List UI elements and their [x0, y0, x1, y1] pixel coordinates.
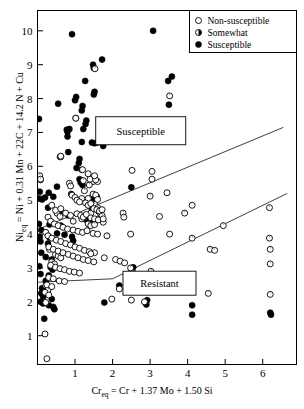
- data-point-filled: [80, 126, 86, 132]
- y-axis-title-post: = Ni + 0.31 Mn + 22C + 14.2 N + Cu: [14, 72, 25, 225]
- data-point-open: [43, 300, 49, 306]
- data-point-open: [65, 226, 71, 232]
- legend-label-2: Susceptible: [208, 40, 252, 50]
- data-point-open: [100, 216, 106, 222]
- x-tick-label-2: 2: [110, 367, 116, 379]
- plot-canvas: 12345612345678910SusceptibleResistantNon…: [0, 0, 304, 409]
- data-point-open: [58, 153, 64, 159]
- data-point-open: [99, 207, 105, 213]
- data-point-filled: [79, 139, 85, 145]
- data-point-open: [77, 270, 83, 276]
- data-point-filled: [72, 97, 78, 103]
- data-point-open: [129, 167, 135, 173]
- data-point-filled: [38, 239, 44, 245]
- region-label: Resistant: [140, 278, 179, 289]
- data-point-filled: [51, 306, 57, 312]
- data-point-open: [92, 173, 98, 179]
- data-point-open: [95, 231, 101, 237]
- data-point-open: [85, 258, 91, 264]
- y-axis-title-pre: Ni: [14, 232, 25, 242]
- data-point-filled: [62, 232, 68, 238]
- data-point-filled: [38, 250, 44, 256]
- data-point-open: [50, 276, 56, 282]
- data-point-open: [85, 171, 91, 177]
- legend-label-1: Somewhat: [208, 28, 248, 38]
- data-point-filled: [65, 149, 71, 155]
- data-point-open: [122, 260, 128, 266]
- data-point-open: [42, 331, 48, 337]
- y-tick-label-2: 2: [27, 296, 33, 308]
- data-point-open: [46, 292, 52, 298]
- y-tick-label-3: 3: [27, 262, 33, 274]
- y-axis-title: Nieq = Ni + 0.31 Mn + 22C + 14.2 N + Cu: [14, 52, 28, 262]
- series-non-susceptible: [42, 115, 195, 362]
- data-point-filled: [189, 302, 195, 308]
- data-point-open: [116, 286, 122, 292]
- data-point-filled: [43, 254, 49, 260]
- data-point-filled: [196, 42, 202, 48]
- data-point-filled: [69, 31, 75, 37]
- data-point-open: [84, 228, 90, 234]
- data-point-open: [149, 176, 155, 182]
- data-point-filled: [54, 184, 60, 190]
- data-point-open: [101, 255, 107, 261]
- data-point-filled: [41, 316, 47, 322]
- data-point-open: [88, 251, 94, 257]
- data-point-filled: [99, 57, 105, 63]
- data-point-filled: [150, 28, 156, 34]
- data-point-filled: [166, 102, 172, 108]
- data-point-filled: [189, 312, 195, 318]
- data-point-open: [91, 259, 97, 265]
- data-point-open: [62, 279, 68, 285]
- x-axis-title-pre: Cr: [91, 385, 101, 396]
- scatter-plot-figure: 12345612345678910SusceptibleResistantNon…: [0, 0, 304, 409]
- region-label: Susceptible: [117, 126, 166, 137]
- data-point-open: [128, 231, 134, 237]
- data-point-filled: [36, 221, 42, 227]
- region-annotation-resistant: Resistant: [123, 271, 196, 295]
- data-point-open: [164, 190, 170, 196]
- x-tick-label-5: 5: [222, 367, 228, 379]
- x-tick-label-6: 6: [260, 367, 266, 379]
- legend: Non-susceptibleSomewhatSusceptible: [190, 11, 297, 53]
- data-point-filled: [55, 101, 61, 107]
- data-point-open: [156, 213, 162, 219]
- data-point-open: [58, 206, 64, 212]
- y-axis-title-sub: eq: [19, 225, 28, 232]
- data-point-filled: [36, 116, 42, 122]
- x-tick-label-4: 4: [185, 367, 191, 379]
- plot-frame: [38, 11, 297, 365]
- y-tick-label-10: 10: [22, 25, 34, 37]
- data-point-filled: [38, 271, 44, 277]
- data-point-open: [141, 299, 147, 305]
- y-tick-label-1: 1: [27, 330, 33, 342]
- data-point-open: [68, 212, 74, 218]
- data-point-open: [128, 297, 134, 303]
- data-point-open: [44, 356, 50, 362]
- x-tick-label-3: 3: [147, 367, 153, 379]
- data-point-filled: [50, 194, 56, 200]
- data-point-open: [167, 231, 173, 237]
- data-point-open: [109, 296, 115, 302]
- data-point-open: [95, 197, 101, 203]
- legend-label-0: Non-susceptible: [208, 16, 270, 26]
- data-point-open: [77, 199, 83, 205]
- data-point-filled: [79, 107, 85, 113]
- x-tick-label-1: 1: [72, 367, 78, 379]
- data-point-open: [73, 115, 79, 121]
- data-point-filled: [128, 184, 134, 190]
- data-point-filled: [91, 92, 97, 98]
- data-point-open: [196, 18, 202, 24]
- data-point-filled: [54, 230, 60, 236]
- region-annotation-susceptible: Susceptible: [96, 117, 186, 145]
- data-point-filled: [82, 78, 88, 84]
- data-point-open: [80, 167, 86, 173]
- x-axis-title-post: = Cr + 1.37 Mo + 1.50 Si: [108, 385, 212, 396]
- data-point-open: [189, 202, 195, 208]
- data-point-filled: [101, 300, 107, 306]
- data-point-filled: [165, 78, 171, 84]
- data-point-filled: [268, 312, 274, 318]
- data-point-open: [49, 284, 55, 290]
- x-axis-title: Creq = Cr + 1.37 Mo + 1.50 Si: [0, 385, 304, 399]
- data-point-filled: [65, 134, 71, 140]
